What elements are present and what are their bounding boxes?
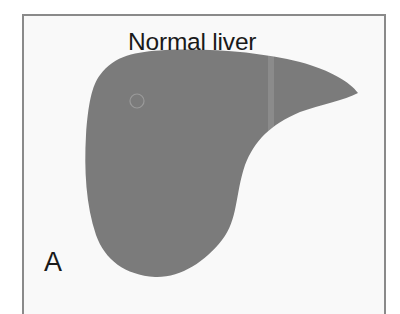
scan-artifact-stripe: [268, 55, 274, 145]
panel-label: A: [44, 247, 62, 278]
figure-title: Normal liver: [128, 28, 256, 56]
liver-shape: [85, 50, 358, 278]
